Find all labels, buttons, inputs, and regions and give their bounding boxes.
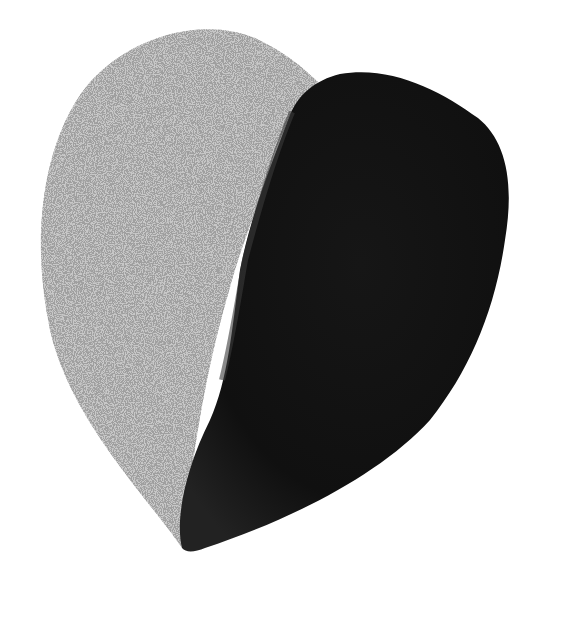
- heart-image: [0, 0, 563, 641]
- heart-illustration: [0, 0, 563, 641]
